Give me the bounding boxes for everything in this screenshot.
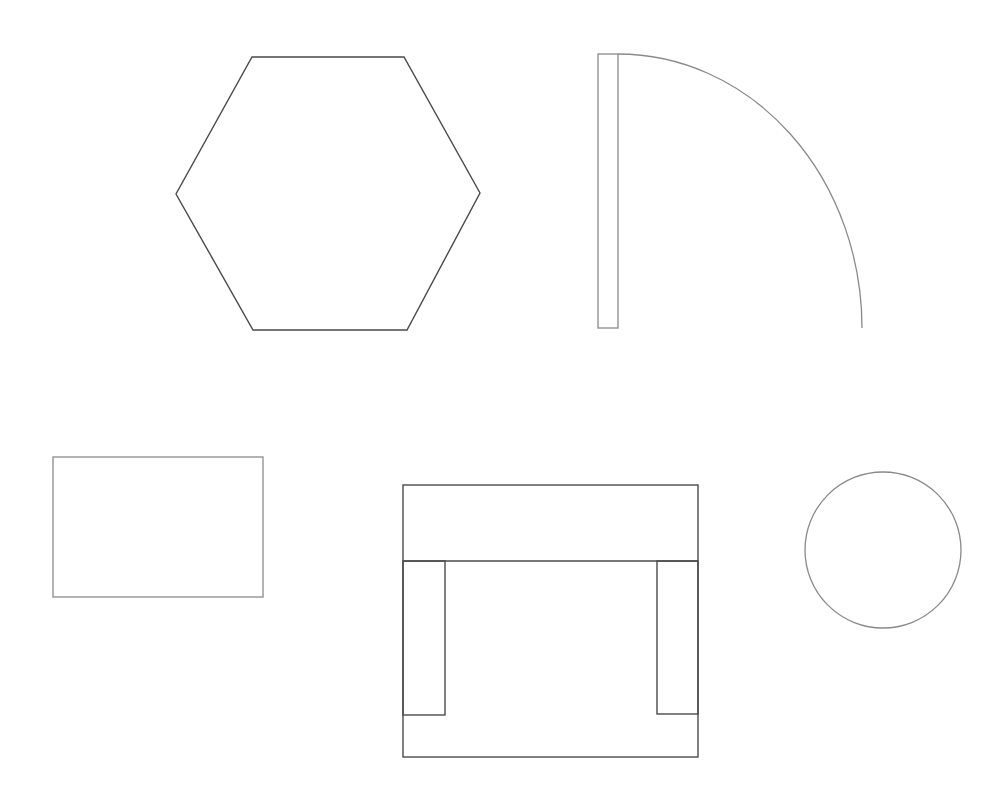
armchair-symbol xyxy=(403,485,698,757)
armchair-left-arm xyxy=(403,561,445,715)
circle-shape xyxy=(805,472,961,628)
door-panel xyxy=(598,54,618,328)
drawing-canvas xyxy=(0,0,1007,795)
hexagon-shape xyxy=(176,57,480,330)
armchair-right-arm xyxy=(657,561,698,714)
door-swing-arc xyxy=(618,54,862,328)
armchair-outline xyxy=(403,485,698,757)
rectangle-shape xyxy=(53,457,263,597)
door-swing-symbol xyxy=(598,54,862,328)
